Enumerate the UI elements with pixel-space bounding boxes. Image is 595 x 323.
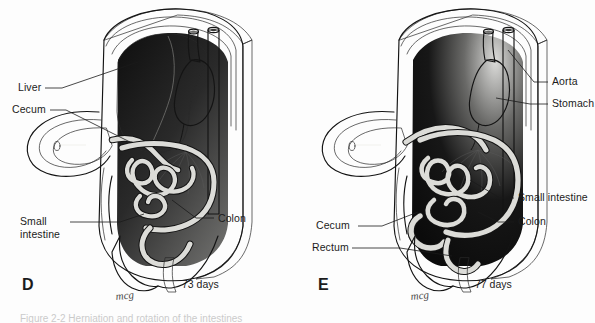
label-cecum-e: Cecum: [316, 219, 350, 231]
figure-root: Liver Cecum Small intestine Colon D 73 d…: [0, 0, 595, 323]
label-cecum-d: Cecum: [12, 103, 46, 115]
label-small-intestine-e: Small intestine: [518, 191, 588, 203]
age-label-d: 73 days: [182, 278, 219, 290]
caption-text: Figure 2-2 Herniation and rotation of th…: [20, 313, 242, 323]
label-small-intestine-d-line1: Small: [20, 215, 47, 227]
label-small-intestine-d-line2: intestine: [20, 228, 60, 240]
esophagus-lumen-inner-d: [191, 30, 196, 32]
figure-caption: Figure 2-2 Herniation and rotation of th…: [20, 313, 242, 323]
label-liver-d: Liver: [18, 81, 42, 93]
figure-canvas: Liver Cecum Small intestine Colon D 73 d…: [0, 0, 595, 323]
artist-signature-d: mcg: [115, 288, 135, 302]
aorta-lumen-inner-d: [211, 29, 216, 31]
label-rectum-e: Rectum: [312, 241, 349, 253]
label-colon-e: Colon: [518, 215, 546, 227]
age-label-e: 77 days: [475, 278, 512, 290]
panel-letter-e: E: [318, 276, 329, 293]
esophagus-lumen-inner-e: [486, 30, 491, 32]
label-aorta-e: Aorta: [552, 75, 578, 87]
aorta-lumen-inner-e: [506, 29, 511, 31]
panel-letter-d: D: [22, 276, 34, 293]
artist-signature-e: mcg: [410, 288, 430, 302]
label-colon-d: Colon: [218, 212, 246, 224]
label-stomach-e: Stomach: [552, 97, 594, 109]
